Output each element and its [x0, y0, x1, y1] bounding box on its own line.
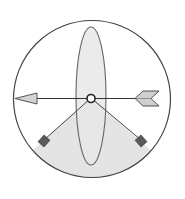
diagram-canvas [0, 0, 185, 199]
arrowhead-icon [15, 93, 37, 104]
center-point [87, 95, 95, 103]
diagram-svg [0, 0, 185, 199]
